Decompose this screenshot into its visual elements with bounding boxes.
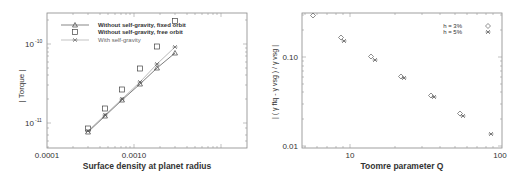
square-marker-icon <box>73 30 78 35</box>
asterisk-marker-icon <box>73 38 78 42</box>
right-series-h3 <box>311 13 463 116</box>
right-series-h5 <box>342 39 494 136</box>
right-xtick-label-2: 100 <box>493 151 507 160</box>
right-plot-frame <box>302 13 502 148</box>
left-series-fixed-orbit <box>86 51 178 135</box>
right-xtick-label-1: 10 <box>346 151 355 160</box>
right-y-axis-label: | ( γ ftq - γ vsg ) / γ vsg | <box>271 45 279 119</box>
right-ytick-label-2: 0.10 <box>282 53 298 62</box>
left-legend: Without self-gravity, fixed orbit Withou… <box>61 22 186 43</box>
left-y-axis-label: | Torque | <box>17 70 26 103</box>
svg-text:10: 10 <box>25 119 34 128</box>
right-x-ticks <box>305 13 493 148</box>
right-x-axis-label: Toomre parameter Q <box>361 161 444 171</box>
right-ytick-label-1: 0.01 <box>282 142 298 151</box>
svg-text:h = 5%: h = 5% <box>443 29 463 35</box>
left-xtick-label-2: 0.0010 <box>122 151 147 160</box>
svg-text:10: 10 <box>25 40 34 49</box>
svg-text:With self-gravity: With self-gravity <box>98 37 141 43</box>
right-y-ticks <box>302 15 502 146</box>
right-legend: h = 3% h = 5% <box>443 23 490 35</box>
left-series-free-orbit <box>86 19 178 132</box>
left-x-axis-label: Surface density at planet radius <box>83 161 212 171</box>
diamond-marker-icon <box>486 24 491 29</box>
svg-text:-11: -11 <box>35 117 42 123</box>
left-chart: 0.0001 0.0010 10 -11 10 -10 Surface dens… <box>17 13 247 171</box>
svg-text:Without self-gravity, free orb: Without self-gravity, free orbit <box>98 29 183 35</box>
left-series-self-gravity <box>86 45 178 133</box>
svg-text:-10: -10 <box>35 38 42 44</box>
left-ytick-label-low: 10 -11 <box>25 117 42 128</box>
left-y-ticks <box>47 20 247 147</box>
right-chart: 10 100 0.01 0.10 Toomre parameter Q | ( … <box>271 13 507 171</box>
left-xtick-label-1: 0.0001 <box>35 151 60 160</box>
left-ytick-label-high: 10 -10 <box>25 38 42 49</box>
asterisk-marker-icon <box>486 30 491 34</box>
figure: 0.0001 0.0010 10 -11 10 -10 Surface dens… <box>0 0 519 177</box>
